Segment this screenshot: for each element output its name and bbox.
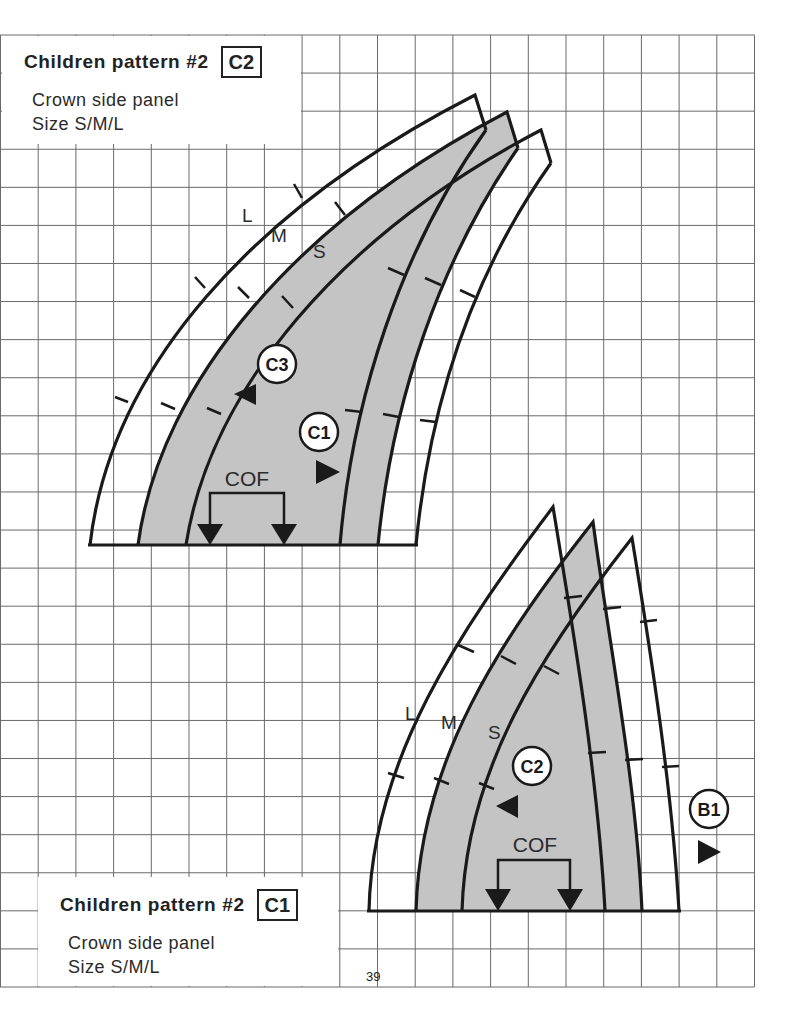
svg-text:C3: C3 [265, 355, 288, 375]
svg-text:C2: C2 [520, 757, 543, 777]
svg-text:B1: B1 [697, 800, 720, 820]
pattern-code-badge: C1 [257, 889, 299, 921]
arrow-right-icon [698, 840, 721, 864]
pattern-sizes: Size S/M/L [68, 956, 160, 979]
svg-text:COF: COF [225, 467, 269, 490]
size-label-m: M [441, 712, 457, 733]
pattern-label-c1: Children pattern #2 C1 Crown side panel … [38, 877, 338, 986]
size-label-l: L [242, 205, 253, 226]
marker-b1: B1 [690, 790, 728, 864]
pattern-sheet: L M S C3 C1 COF [0, 0, 786, 1026]
size-label-s: S [488, 722, 501, 743]
pattern-c2: L M S C3 C1 COF [88, 95, 551, 545]
size-label-l: L [405, 703, 416, 724]
pattern-description: Crown side panel [32, 89, 179, 112]
svg-text:COF: COF [513, 833, 557, 856]
svg-text:C1: C1 [307, 423, 330, 443]
page-number: 39 [366, 969, 380, 984]
pattern-sizes: Size S/M/L [32, 113, 124, 136]
pattern-code-badge: C2 [221, 46, 263, 78]
pattern-title: Children pattern #2 [60, 894, 245, 916]
size-label-s: S [313, 241, 326, 262]
pattern-c1: L M S C2 B1 COF [367, 507, 728, 911]
size-label-m: M [271, 225, 287, 246]
pattern-label-c2: Children pattern #2 C2 Crown side panel … [2, 36, 301, 144]
size-labels: L M S [242, 205, 326, 262]
pattern-description: Crown side panel [68, 932, 215, 955]
pattern-title: Children pattern #2 [24, 51, 209, 73]
